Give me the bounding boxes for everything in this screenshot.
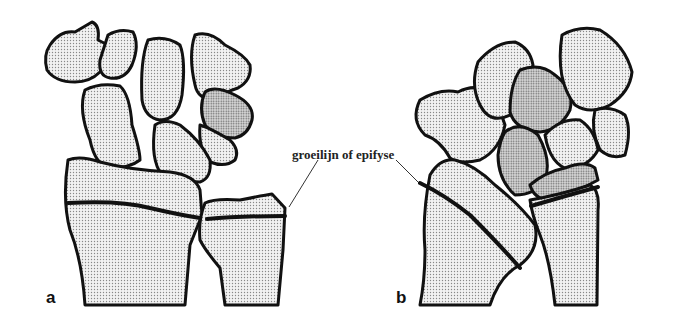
carpal-bone — [46, 22, 109, 82]
growth-plate-annotation-label: groeilijn of epifyse — [292, 147, 394, 163]
annotation-leader-line — [289, 160, 318, 207]
carpal-bone — [560, 28, 632, 110]
radius-bone — [65, 158, 202, 305]
ulna-bone — [200, 194, 285, 305]
panel-b-illustration — [416, 28, 632, 305]
carpal-bone — [82, 85, 140, 168]
carpal-bone — [142, 38, 184, 120]
carpal-bone — [100, 31, 137, 79]
carpal-bone — [545, 120, 598, 170]
panel-a-letter: a — [46, 288, 55, 308]
wrist-diagram — [0, 0, 673, 333]
panel-b-letter: b — [396, 288, 406, 308]
panel-a-illustration — [46, 22, 285, 305]
annotation-leader-line — [396, 160, 419, 183]
